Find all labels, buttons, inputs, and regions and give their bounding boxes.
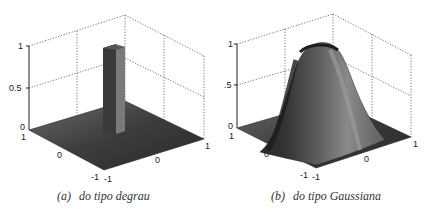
x-tick-0-b: 0	[264, 149, 269, 159]
caption-tag-a: (a)	[57, 189, 71, 203]
z-tick-0-b: 0	[228, 121, 233, 131]
caption-text-b: do tipo Gaussiana	[293, 189, 381, 203]
caption-b: (b)do tipo Gaussiana	[271, 189, 381, 204]
z-tick-1-a: 1	[18, 41, 23, 51]
gaussian-bump	[260, 43, 385, 165]
z-tick-05-b: .5	[224, 80, 232, 90]
z-tick-05-a: 0.5	[9, 83, 22, 93]
x-tick-1-b: 1	[229, 131, 234, 141]
y-tick-1-b: 1	[413, 139, 418, 149]
y-tick-m1-b: -1	[312, 172, 320, 182]
panel-a-step-surface: 1 0.5 0 1 0 -1 -1 0 1 (a)do tipo degrau	[0, 0, 215, 218]
x-tick-0-a: 0	[57, 150, 62, 160]
caption-a: (a)do tipo degrau	[57, 189, 150, 204]
surface-plot-a: 1 0.5 0 1 0 -1 -1 0 1	[0, 0, 215, 218]
z-tick-1-b: 1	[228, 39, 233, 49]
y-tick-m1-a: -1	[104, 174, 112, 184]
y-tick-0-b: 0	[364, 154, 369, 164]
y-tick-0-a: 0	[155, 155, 160, 165]
z-tick-0-a: 0	[20, 122, 25, 132]
surface-plot-b: 1 .5 0 1 0 -1 -1 0 1	[208, 0, 431, 218]
x-tick-m1-b: -1	[300, 170, 308, 180]
x-tick-1-a: 1	[21, 132, 26, 142]
caption-tag-b: (b)	[271, 189, 285, 203]
panel-b-gaussian-surface: 1 .5 0 1 0 -1 -1 0 1 (b)do tipo Gaussian…	[208, 0, 431, 218]
caption-text-a: do tipo degrau	[79, 189, 150, 203]
step-pillar	[103, 44, 125, 134]
x-tick-m1-a: -1	[91, 172, 99, 182]
